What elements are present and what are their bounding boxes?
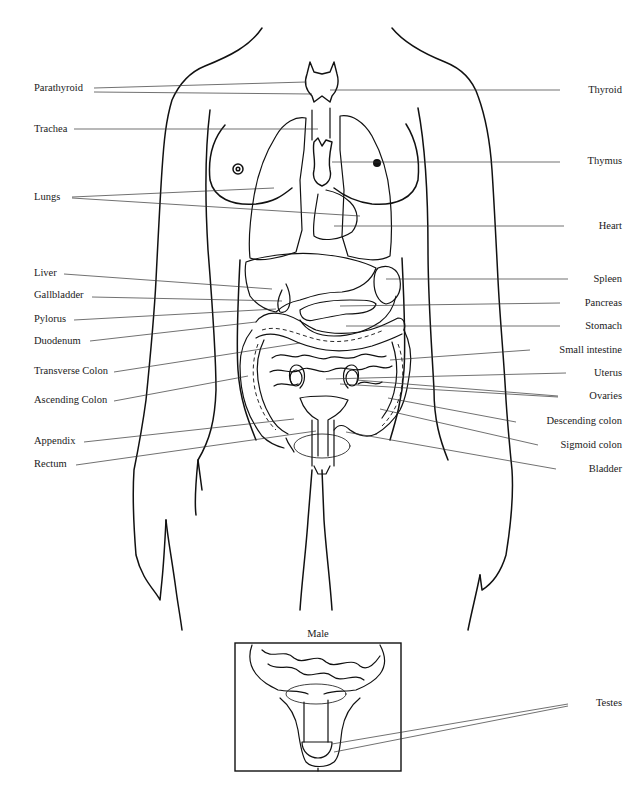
label-trachea: Trachea — [34, 123, 67, 135]
label-appendix: Appendix — [34, 435, 75, 447]
body-outline — [133, 28, 512, 630]
label-thymus: Thymus — [588, 155, 622, 167]
label-liver: Liver — [34, 267, 57, 279]
left-ovary — [290, 370, 302, 386]
label-gallbladder: Gallbladder — [34, 289, 84, 301]
sigmoid-colon-shape — [334, 426, 376, 437]
label-spleen: Spleen — [593, 273, 622, 285]
appendix-shape — [286, 438, 294, 452]
label-thyroid: Thyroid — [588, 84, 622, 96]
label-heart: Heart — [599, 220, 622, 232]
label-transverse-colon: Transverse Colon — [34, 365, 108, 377]
bladder-shape — [294, 434, 350, 458]
male-inset — [235, 643, 568, 771]
label-ovaries: Ovaries — [589, 390, 622, 402]
label-uterus: Uterus — [594, 367, 622, 379]
ascending-colon-shape — [240, 330, 284, 448]
label-descending-colon: Descending colon — [546, 415, 622, 427]
inset-frame — [235, 643, 401, 771]
label-ascending-colon: Ascending Colon — [34, 394, 107, 406]
right-lung — [340, 116, 392, 260]
label-parathyroid: Parathyroid — [34, 82, 83, 94]
thymus-gland — [313, 138, 332, 186]
label-bladder: Bladder — [589, 463, 622, 475]
label-small-intestine: Small intestine — [559, 344, 622, 356]
label-rectum: Rectum — [34, 458, 67, 470]
label-stomach: Stomach — [585, 320, 622, 332]
inset-caption: Male — [235, 628, 401, 639]
trachea-shape — [312, 108, 330, 140]
label-lungs: Lungs — [34, 191, 60, 203]
spleen-shape — [374, 267, 400, 305]
label-sigmoid-colon: Sigmoid colon — [560, 439, 622, 451]
liver-shape — [245, 253, 376, 312]
label-pylorus: Pylorus — [34, 313, 66, 325]
anatomy-diagram: Parathyroid Trachea Lungs Liver Gallblad… — [0, 0, 634, 810]
label-pancreas: Pancreas — [585, 297, 622, 309]
rectum-shape — [312, 420, 334, 466]
label-duodenum: Duodenum — [34, 335, 81, 347]
small-intestine-shape — [272, 354, 386, 359]
label-testes: Testes — [596, 697, 622, 709]
organs — [240, 62, 411, 474]
pancreas-shape — [300, 300, 376, 321]
thyroid-gland — [306, 62, 338, 102]
